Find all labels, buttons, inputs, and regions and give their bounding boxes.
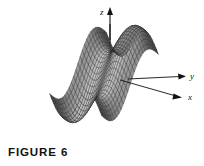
surface-plot-svg: z y x (0, 0, 204, 140)
x-axis-label: x (187, 92, 192, 102)
z-axis-label: z (99, 7, 104, 17)
y-axis-label: y (189, 71, 194, 81)
figure-container: z y x FIGURE 6 (0, 0, 204, 166)
surface-plot: z y x (0, 0, 204, 140)
figure-caption: FIGURE 6 (8, 146, 68, 158)
